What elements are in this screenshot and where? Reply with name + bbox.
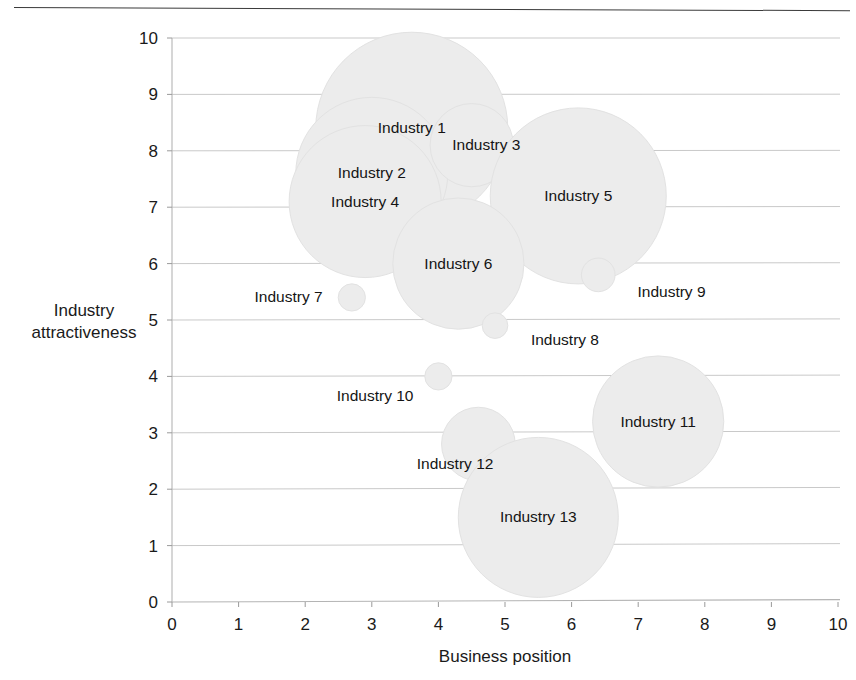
x-tick-label-2: 2 (300, 615, 309, 634)
y-axis-title-line1: Industry (54, 301, 115, 320)
bubble-7 (338, 284, 365, 311)
y-tick-label-8: 8 (149, 142, 158, 161)
bubble-label-5: Industry 5 (544, 187, 612, 204)
x-axis-title: Business position (439, 647, 571, 666)
bubble-8 (482, 313, 508, 339)
bubble-label-3: Industry 3 (452, 136, 520, 153)
bubble-chart: Industry 1Industry 2Industry 3Industry 4… (0, 0, 856, 680)
x-tick-label-8: 8 (700, 615, 709, 634)
y-tick-label-0: 0 (149, 593, 158, 612)
y-tick-label-5: 5 (149, 311, 158, 330)
x-tick-label-4: 4 (434, 615, 443, 634)
y-tick-label-1: 1 (149, 537, 158, 556)
y-tick-label-7: 7 (149, 198, 158, 217)
x-tick-label-7: 7 (633, 615, 642, 634)
chart-canvas: Industry 1Industry 2Industry 3Industry 4… (0, 0, 856, 680)
bubble-label-6: Industry 6 (424, 255, 492, 272)
x-tick-label-10: 10 (829, 615, 848, 634)
bubble-9 (581, 258, 615, 292)
x-tick-label-5: 5 (500, 615, 509, 634)
y-tick-label-10: 10 (139, 29, 158, 48)
y-tick-label-3: 3 (149, 424, 158, 443)
bubble-label-10: Industry 10 (337, 387, 414, 404)
bubble-label-4: Industry 4 (331, 193, 399, 210)
bubble-label-13: Industry 13 (500, 508, 577, 525)
y-axis-title-line2: attractiveness (32, 323, 137, 342)
x-tick-label-3: 3 (367, 615, 376, 634)
x-tick-label-9: 9 (767, 615, 776, 634)
x-axis-line (172, 600, 840, 602)
y-tick-label-9: 9 (149, 85, 158, 104)
gridline-y-4 (172, 375, 840, 376)
bubble-label-2: Industry 2 (338, 164, 406, 181)
x-tick-label-1: 1 (234, 615, 243, 634)
y-tick-label-2: 2 (149, 480, 158, 499)
bubble-label-7: Industry 7 (255, 288, 323, 305)
x-tick-label-0: 0 (167, 615, 176, 634)
x-tick-label-6: 6 (567, 615, 576, 634)
bubble-label-12: Industry 12 (417, 455, 494, 472)
bubble-10 (425, 363, 452, 390)
bubble-label-9: Industry 9 (637, 283, 705, 300)
bubble-label-8: Industry 8 (531, 331, 599, 348)
y-tick-label-6: 6 (149, 255, 158, 274)
bubble-label-1: Industry 1 (378, 119, 446, 136)
bubble-label-11: Industry 11 (620, 413, 696, 430)
y-tick-label-4: 4 (149, 367, 158, 386)
